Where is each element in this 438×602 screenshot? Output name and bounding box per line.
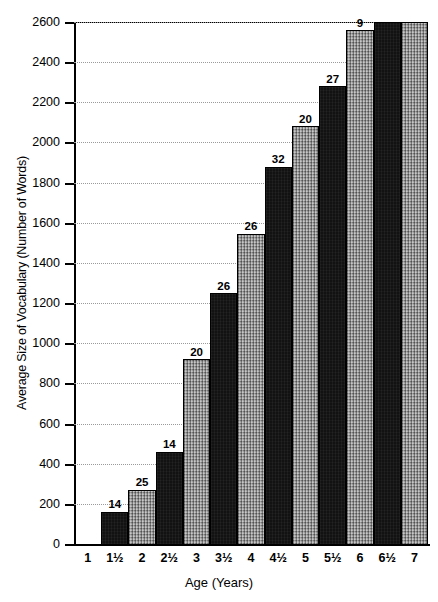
- bar-value-label: 14: [108, 499, 121, 511]
- y-axis-tick: [65, 464, 74, 466]
- y-axis-tick: [65, 263, 74, 265]
- bar-value-label: 25: [136, 477, 149, 489]
- y-axis-tick-label: 2400: [16, 56, 60, 69]
- x-axis-tick-label: 7: [411, 552, 418, 565]
- x-axis-tick-label: 1½: [106, 552, 123, 565]
- bar: 14: [156, 452, 183, 544]
- y-axis-tick-label: 2200: [16, 96, 60, 109]
- y-axis-tick-label: 600: [16, 418, 60, 431]
- y-axis-tick: [65, 343, 74, 345]
- bar-value-label: 27: [326, 74, 339, 86]
- bar-value-label: 20: [299, 114, 312, 126]
- x-axis-tick-label: 5½: [324, 552, 341, 565]
- y-axis-tick: [65, 504, 74, 506]
- bar: 20: [292, 126, 319, 544]
- x-axis-tick-label: 4: [248, 552, 255, 565]
- y-axis-tick-label: 1800: [16, 177, 60, 190]
- bar: 14: [101, 512, 128, 544]
- bar: [74, 543, 101, 544]
- x-axis-tick-label: 1: [84, 552, 91, 565]
- y-axis-tick: [65, 183, 74, 185]
- bar-value-label: 14: [163, 439, 176, 451]
- x-axis-tick-label: 4½: [270, 552, 287, 565]
- bar: [374, 22, 401, 544]
- x-axis-tick-label: 2: [139, 552, 146, 565]
- bar: 26: [237, 234, 264, 544]
- bar: 27: [319, 86, 346, 544]
- y-axis-tick: [65, 22, 74, 24]
- y-axis-tick-label: 0: [16, 538, 60, 551]
- y-axis-tick: [65, 303, 74, 305]
- bar: 20: [183, 359, 210, 544]
- bar: [401, 22, 428, 544]
- vocabulary-growth-bar-chart: Average Size of Vocabulary (Number of Wo…: [0, 0, 438, 602]
- y-axis-tick-label: 800: [16, 377, 60, 390]
- bar: 9: [346, 30, 373, 544]
- x-axis-tick-label: 2½: [161, 552, 178, 565]
- y-axis-tick: [65, 544, 74, 546]
- y-axis-tick: [65, 383, 74, 385]
- y-axis-tick: [65, 142, 74, 144]
- y-axis-tick-label: 1600: [16, 217, 60, 230]
- y-axis-tick-label: 400: [16, 458, 60, 471]
- x-axis-tick-label: 5: [302, 552, 309, 565]
- y-axis-tick-label: 1200: [16, 297, 60, 310]
- y-axis-tick: [65, 223, 74, 225]
- x-axis-tick-label: 6½: [378, 552, 395, 565]
- y-axis-tick-label: 2600: [16, 16, 60, 29]
- x-axis-tick-label: 3½: [215, 552, 232, 565]
- bar-value-label: 26: [245, 221, 258, 233]
- y-axis-tick: [65, 424, 74, 426]
- y-axis-tick-label: 1000: [16, 337, 60, 350]
- bar-value-label: 26: [217, 281, 230, 293]
- y-axis-tick: [65, 62, 74, 64]
- y-axis-tick-label: 1400: [16, 257, 60, 270]
- bar: 26: [210, 293, 237, 544]
- bar-value-label: 9: [357, 18, 363, 30]
- y-axis-tick-label: 200: [16, 498, 60, 511]
- bar-value-label: 20: [190, 347, 203, 359]
- x-axis-tick-label: 3: [193, 552, 200, 565]
- bar: 25: [128, 490, 155, 544]
- bar-value-label: 32: [272, 154, 285, 166]
- y-axis-tick: [65, 102, 74, 104]
- bar: 32: [265, 167, 292, 544]
- x-axis-tick-label: 6: [356, 552, 363, 565]
- x-axis-title: Age (Years): [0, 575, 438, 590]
- y-axis-tick-label: 2000: [16, 136, 60, 149]
